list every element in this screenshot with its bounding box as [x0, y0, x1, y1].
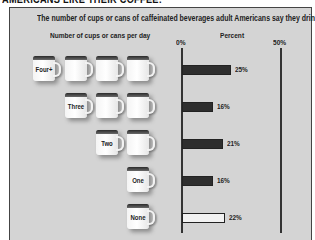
- category-label: Four+: [35, 65, 53, 74]
- category-label: None: [129, 213, 147, 222]
- mug-icon: One: [127, 167, 153, 192]
- tick-label-0: 0%: [176, 38, 185, 47]
- fifty-percent-line: [280, 48, 282, 233]
- category-label: Three: [67, 102, 85, 111]
- mug-icon: [127, 130, 153, 155]
- mug-icon: [96, 56, 122, 81]
- bar-three: [182, 102, 213, 112]
- value-axis-label: Percent: [220, 31, 244, 40]
- value-label: 16%: [217, 102, 230, 111]
- bar-none: [182, 213, 225, 223]
- mug-icon: [65, 56, 91, 81]
- mug-icon: [127, 56, 153, 81]
- mug-icon: [96, 93, 122, 118]
- chart-title: The number of cups or cans of caffeinate…: [37, 13, 284, 23]
- bar-four-plus: [182, 65, 231, 75]
- mug-icon: Four+: [33, 56, 59, 81]
- bar-two: [182, 139, 223, 149]
- headline: AMERICANS LIKE THEIR COFFEE:: [2, 0, 162, 5]
- category-label: One: [129, 176, 147, 185]
- value-label: 22%: [229, 213, 242, 222]
- value-label: 21%: [227, 139, 240, 148]
- mug-icon: Three: [65, 93, 91, 118]
- bar-one: [182, 176, 213, 186]
- mug-icon: [127, 93, 153, 118]
- value-label: 16%: [217, 176, 230, 185]
- mug-icon: None: [127, 204, 153, 229]
- category-axis-label: Number of cups or cans per day: [50, 31, 150, 40]
- category-label: Two: [98, 139, 116, 148]
- value-label: 25%: [235, 65, 248, 74]
- tick-label-50: 50%: [273, 38, 286, 47]
- mug-icon: Two: [96, 130, 122, 155]
- chart-panel: The number of cups or cans of caffeinate…: [9, 7, 312, 240]
